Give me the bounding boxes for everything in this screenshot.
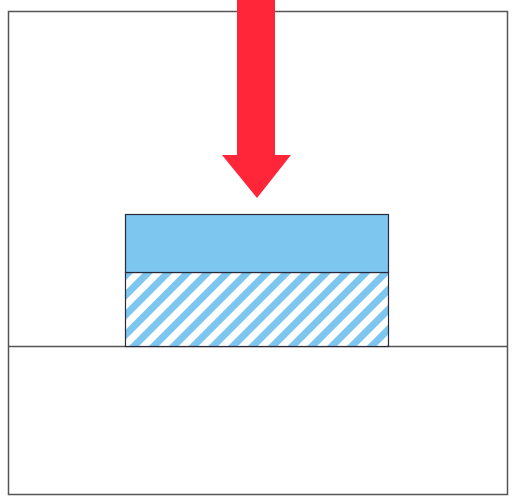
arrow-shaft bbox=[237, 0, 275, 157]
solid-top-layer bbox=[126, 215, 389, 273]
hatched-bottom-layer bbox=[126, 273, 389, 347]
force-diagram bbox=[0, 0, 520, 499]
